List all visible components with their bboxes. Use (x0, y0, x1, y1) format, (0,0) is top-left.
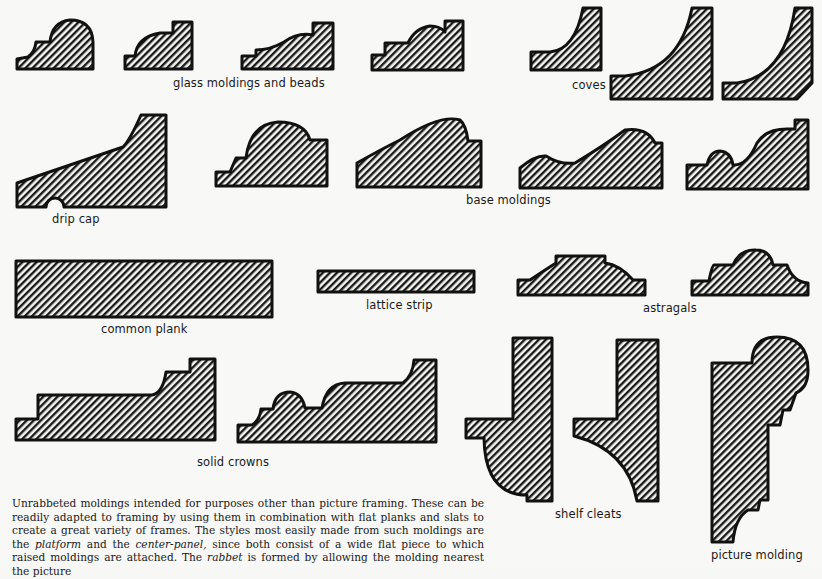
label-lattice-strip: lattice strip (366, 298, 433, 312)
label-solid-crowns: solid crowns (197, 455, 269, 469)
lattice-strip (318, 271, 474, 292)
cove-2 (611, 8, 712, 99)
label-picture-molding: picture molding (711, 548, 803, 562)
label-astragals: astragals (643, 301, 697, 315)
shelf-cleat-2 (574, 340, 658, 501)
drip-cap (17, 115, 166, 207)
base-molding-4 (687, 120, 808, 189)
cove-1 (531, 8, 601, 70)
astragal-1 (518, 256, 645, 295)
cove-3 (723, 8, 812, 99)
shelf-cleat-1 (466, 338, 552, 501)
label-coves: coves (572, 78, 606, 92)
figure-caption: Unrabbeted moldings intended for purpose… (12, 497, 484, 579)
astragals-group (518, 250, 808, 295)
glass-moldings-group (17, 20, 463, 70)
common-plank (16, 261, 272, 317)
glass-molding-4 (372, 21, 463, 70)
caption-term-center-panel: center-panel, (135, 538, 206, 550)
glass-molding-2 (125, 22, 192, 69)
label-shelf-cleats: shelf cleats (555, 507, 622, 521)
label-drip-cap: drip cap (52, 212, 100, 226)
base-molding-2 (357, 119, 481, 187)
shelf-cleats-group (466, 338, 658, 501)
label-common-plank: common plank (101, 322, 187, 336)
base-moldings-group (216, 119, 808, 189)
label-glass-moldings: glass moldings and beads (173, 76, 325, 90)
caption-text-2: and the (81, 538, 135, 550)
label-base-moldings: base moldings (466, 193, 551, 207)
base-molding-3 (520, 130, 662, 188)
solid-crown-2 (238, 360, 436, 442)
astragal-2 (692, 250, 808, 295)
picture-molding (712, 337, 808, 542)
caption-term-platform: platform (35, 538, 81, 550)
glass-molding-1 (17, 20, 93, 69)
solid-crown-1 (16, 359, 215, 440)
caption-term-rabbet: rabbet (207, 551, 242, 563)
base-molding-1 (216, 122, 327, 186)
solid-crowns-group (16, 359, 436, 442)
glass-molding-3 (242, 23, 333, 69)
